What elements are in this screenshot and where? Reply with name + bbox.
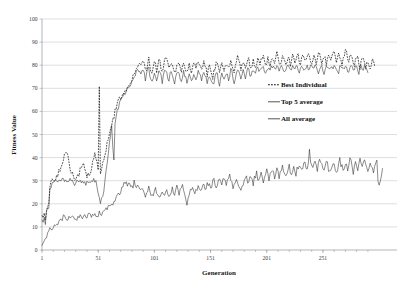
y-tick-label: 20 (32, 201, 38, 207)
chart-background (0, 0, 403, 289)
legend-label-2: All average (281, 115, 315, 123)
y-tick-label: 80 (32, 62, 38, 68)
x-tick-label: 101 (150, 255, 159, 261)
y-axis-title: Fitness Value (10, 115, 18, 154)
x-tick-label: 201 (263, 255, 272, 261)
y-tick-label: 100 (29, 16, 38, 22)
x-tick-label: 251 (319, 255, 328, 261)
x-tick-label: 1 (41, 255, 44, 261)
y-tick-label: 10 (32, 224, 38, 230)
legend-label-1: Top 5 average (281, 98, 323, 106)
legend-label-0: Best Individual (281, 81, 327, 89)
y-tick-label: 0 (35, 247, 38, 253)
chart-canvas: 0102030405060708090100 151101151201251 B… (0, 0, 403, 289)
y-tick-label: 30 (32, 178, 38, 184)
y-tick-label: 70 (32, 85, 38, 91)
y-tick-label: 90 (32, 39, 38, 45)
y-tick-label: 60 (32, 108, 38, 114)
x-tick-label: 51 (95, 255, 101, 261)
fitness-chart: 0102030405060708090100 151101151201251 B… (0, 0, 403, 289)
x-tick-label: 151 (206, 255, 215, 261)
y-tick-label: 50 (32, 132, 38, 138)
x-axis-title: Generation (202, 269, 236, 277)
y-tick-label: 40 (32, 155, 38, 161)
